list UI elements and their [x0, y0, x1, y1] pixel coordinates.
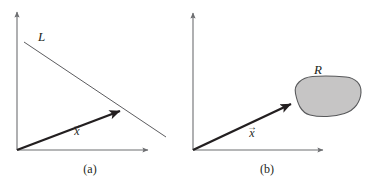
caption-panel-b: (b): [245, 163, 289, 175]
line-label-L: L: [38, 30, 45, 43]
caption-panel-a: (a): [68, 163, 112, 175]
vector-x-panel-b: [193, 104, 291, 150]
region-label-R: R: [314, 63, 322, 76]
line-L: [24, 42, 166, 137]
region-R-blob: [295, 76, 361, 117]
vector-label-x-panel-b: → x: [245, 124, 259, 139]
vector-x-panel-a: [17, 111, 120, 150]
panel-b: R → x (b): [183, 0, 365, 187]
panel-a-drawing: [0, 0, 183, 187]
panel-a: L → x (a): [0, 0, 183, 187]
panel-b-drawing: [183, 0, 365, 187]
figure-container: L → x (a): [0, 0, 365, 187]
vector-label-x-panel-a: → x: [70, 122, 84, 137]
